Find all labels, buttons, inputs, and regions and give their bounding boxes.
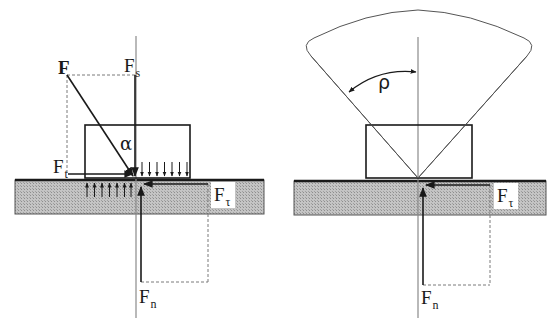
diagram-canvas: F Fs Ft α Fτ Fn ρ Fτ Fn — [0, 0, 559, 320]
block-right — [366, 125, 472, 178]
label-angle-alpha: α — [120, 135, 132, 153]
label-friction-left: Fτ — [214, 185, 230, 204]
label-force-horizontal: Ft — [53, 157, 68, 176]
cone-edge-left — [311, 56, 418, 178]
label-angle-rho: ρ — [378, 73, 390, 92]
label-normal-right: Fn — [421, 288, 439, 307]
label-force: F — [58, 58, 70, 77]
diagram-graphics — [0, 0, 559, 320]
label-normal-left: Fn — [139, 287, 157, 306]
pressure-arrows-down — [142, 162, 187, 176]
block-left — [85, 125, 190, 178]
right-panel — [294, 10, 546, 318]
label-friction-right: Fτ — [497, 186, 513, 205]
label-force-vertical: Fs — [124, 56, 140, 75]
